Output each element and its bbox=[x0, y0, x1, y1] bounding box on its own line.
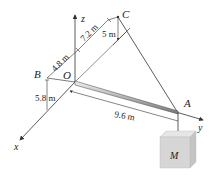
point-label-b: B bbox=[34, 68, 41, 80]
dim-label-c-drop: 5 m bbox=[102, 29, 116, 39]
x-axis bbox=[20, 82, 75, 140]
point-c bbox=[117, 16, 119, 18]
mass-label: M bbox=[169, 150, 179, 161]
point-label-a: A bbox=[183, 97, 191, 109]
statics-diagram: z x y C B O A 4.8 m 7.2 m 5 m 5.8 m 9.6 … bbox=[0, 0, 213, 183]
point-label-o: O bbox=[63, 69, 71, 81]
boom-oa bbox=[75, 81, 178, 114]
point-label-c: C bbox=[122, 8, 130, 20]
axis-label-y: y bbox=[197, 122, 203, 133]
dim-label-b-drop: 5.8 m bbox=[35, 93, 56, 103]
axis-label-z: z bbox=[80, 13, 85, 24]
dim-label-oc: 7.2 m bbox=[78, 22, 100, 44]
diagram-svg: z x y C B O A 4.8 m 7.2 m 5 m 5.8 m 9.6 … bbox=[0, 0, 213, 183]
dim-label-oa: 9.6 m bbox=[114, 109, 136, 122]
axis-label-x: x bbox=[13, 141, 19, 152]
cable-c-left bbox=[108, 17, 118, 20]
